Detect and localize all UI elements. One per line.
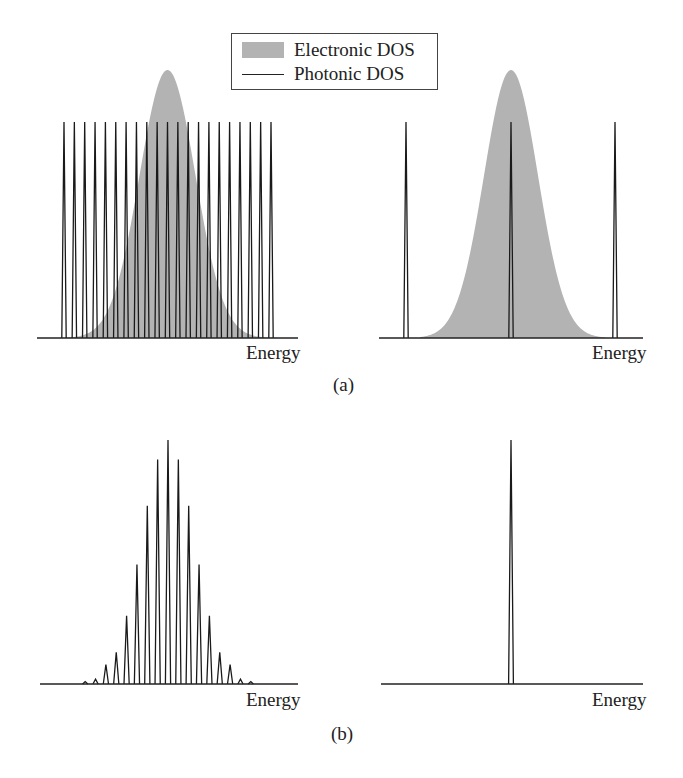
panel-b-right: [381, 440, 643, 684]
legend-swatch-line: [242, 74, 284, 75]
dos-peak: [196, 564, 201, 684]
x-axis-label: Energy: [246, 342, 301, 364]
dos-peak: [207, 616, 212, 684]
legend-swatch-filled: [242, 42, 284, 58]
dos-peak: [134, 564, 139, 684]
dos-peak: [83, 122, 87, 338]
dos-peak: [145, 506, 150, 684]
dos-peak: [404, 122, 408, 338]
legend-item-photonic: Photonic DOS: [242, 63, 404, 85]
dos-peak: [228, 664, 233, 684]
dos-peak: [114, 652, 119, 684]
dos-peak: [227, 122, 231, 338]
dos-peak: [176, 460, 181, 684]
panel-b-left: [40, 440, 298, 684]
dos-peak: [93, 122, 97, 338]
dos-peak: [217, 652, 222, 684]
dos-peak: [258, 122, 262, 338]
panel-caption-a: (a): [333, 374, 354, 396]
panel-caption-b: (b): [331, 723, 353, 745]
x-axis-label: Energy: [592, 342, 647, 364]
dos-peak: [248, 122, 252, 338]
dos-peak: [165, 440, 170, 684]
dos-peak: [186, 506, 191, 684]
legend: Electronic DOS Photonic DOS: [231, 33, 438, 90]
panel-a-right: [379, 70, 643, 338]
dos-peak: [62, 122, 66, 338]
emission-single-peak: [509, 440, 514, 684]
x-axis-label: Energy: [246, 689, 301, 711]
legend-label: Photonic DOS: [294, 63, 404, 85]
dos-peak: [238, 122, 242, 338]
panel-a-left: [37, 70, 298, 338]
dos-peak: [124, 616, 129, 684]
dos-peak: [155, 460, 160, 684]
dos-peak: [103, 664, 108, 684]
legend-label: Electronic DOS: [294, 39, 415, 61]
dos-peak: [269, 122, 273, 338]
x-axis-label: Energy: [592, 689, 647, 711]
legend-item-electronic: Electronic DOS: [242, 39, 415, 61]
dos-peak: [72, 122, 76, 338]
dos-peak: [103, 122, 107, 338]
dos-peak: [613, 122, 617, 338]
dos-peak: [509, 440, 514, 684]
emission-comb-left: [83, 440, 254, 684]
